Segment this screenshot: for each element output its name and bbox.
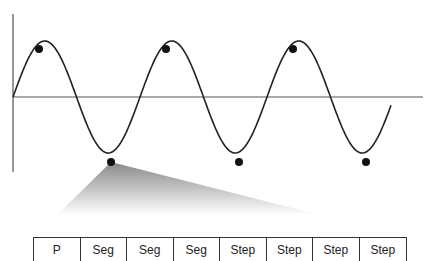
segment-table: PSegSegSegStepStepStepStep [33, 237, 407, 261]
segment-cell: Step [267, 238, 314, 261]
segment-cell: Seg [127, 238, 174, 261]
zoom-wedge [57, 162, 320, 215]
extremum-marker [35, 45, 43, 53]
segment-cell: P [34, 238, 81, 261]
extremum-marker [362, 158, 370, 166]
extremum-marker [235, 158, 243, 166]
extremum-marker [162, 45, 170, 53]
extrema-markers [35, 45, 370, 166]
segment-cell: Step [360, 238, 407, 261]
extremum-marker [107, 158, 115, 166]
segment-cell: Step [313, 238, 360, 261]
extremum-marker [289, 45, 297, 53]
segment-cell: Seg [174, 238, 221, 261]
segment-cell: Seg [81, 238, 128, 261]
segment-cell: Step [220, 238, 267, 261]
